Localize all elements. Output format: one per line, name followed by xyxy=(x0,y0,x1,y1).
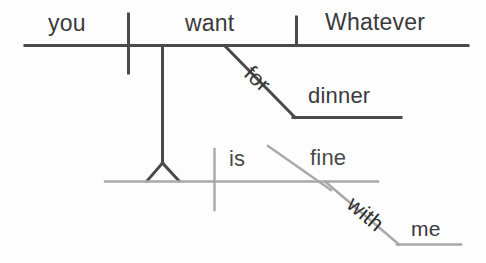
word-is: is xyxy=(229,148,245,170)
noun-clause-stand-leg-left xyxy=(147,163,163,181)
word-you: you xyxy=(48,12,86,35)
word-dinner: dinner xyxy=(308,85,370,107)
word-want: want xyxy=(185,12,234,35)
word-whatever: Whatever xyxy=(325,11,425,34)
word-fine: fine xyxy=(310,147,346,169)
lower-clause-lines xyxy=(105,146,461,245)
sentence-diagram: you want Whatever for dinner is fine wit… xyxy=(0,0,486,263)
word-me: me xyxy=(411,218,441,239)
noun-clause-stand-leg-right xyxy=(163,163,180,181)
upper-clause-lines xyxy=(25,14,468,181)
